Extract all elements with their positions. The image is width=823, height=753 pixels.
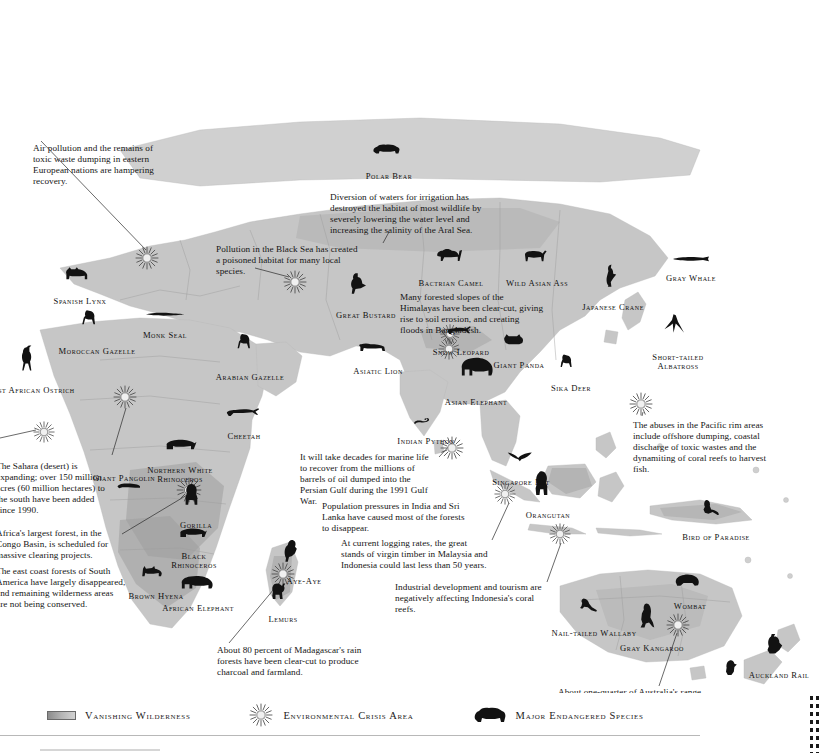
species-label-sika-deer: Sika Deer xyxy=(551,384,591,393)
bear-silhouette-icon xyxy=(473,706,507,724)
species-label-bactrian-camel: Bactrian Camel xyxy=(419,279,484,288)
species-label-lemurs: Lemurs xyxy=(268,615,297,624)
species-label-spanish-lynx: Spanish Lynx xyxy=(54,297,107,306)
legend-item-vanishing-wilderness[interactable]: Vanishing Wilderness xyxy=(47,710,190,721)
land-island-c xyxy=(745,557,751,563)
annotation-indonesia-coral-reefs: Industrial development and tourism are n… xyxy=(395,582,547,615)
species-label-asiatic-lion: Asiatic Lion xyxy=(353,367,403,376)
species-label-gray-kangaroo: Gray Kangaroo xyxy=(616,644,688,653)
species-label-aye-aye: Aye-Aye xyxy=(286,577,321,586)
species-label-snow-leopard: Snow Leopard xyxy=(425,348,497,357)
species-label-auckland-rail: Auckland Rail xyxy=(743,671,815,680)
annotation-madagascar-rainforest: About 80 percent of Madagascar's rain fo… xyxy=(217,645,369,678)
species-label-monk-seal: Monk Seal xyxy=(143,331,187,340)
species-label-indian-python: Indian Python xyxy=(397,437,454,446)
land-tasmania xyxy=(690,666,706,680)
species-label-gray-whale: Gray Whale xyxy=(666,274,716,283)
annotation-australia-desertification: About one-quarter of Australia's range a… xyxy=(558,687,708,693)
species-label-gorilla: Gorilla xyxy=(180,521,212,530)
land-japan-south xyxy=(604,330,618,344)
annotation-himalayas: Many forested slopes of the Himalayas ha… xyxy=(400,292,545,336)
legend-label-vanishing-wilderness: Vanishing Wilderness xyxy=(85,710,190,721)
footer-divider-rule xyxy=(0,735,700,736)
species-label-nail-tailed-wallaby: Nail-tailed Wallaby xyxy=(551,629,636,638)
legend-item-environmental-crisis-area[interactable]: Environmental Crisis Area xyxy=(248,702,413,728)
gradient-band-swatch-icon xyxy=(47,711,76,720)
annotation-india-sri-lanka: Population pressures in India and Sri La… xyxy=(322,501,468,534)
sunburst-icon xyxy=(248,702,274,728)
species-label-great-bustard: Great Bustard xyxy=(336,311,396,320)
species-label-wild-asian-ass: Wild Asian Ass xyxy=(506,279,568,288)
crisis-west-africa-sunburst-icon[interactable] xyxy=(34,422,54,442)
crisis-australia-sunburst-icon[interactable] xyxy=(667,614,689,636)
land-island-d xyxy=(788,574,793,579)
legend-item-major-endangered-species[interactable]: Major Endangered Species xyxy=(473,706,644,724)
species-label-japanese-crane: Japanese Crane xyxy=(582,303,644,312)
crisis-pacific-rim-sunburst-icon[interactable] xyxy=(630,393,652,415)
species-label-asian-elephant: Asian Elephant xyxy=(445,398,508,407)
annotation-eastern-europe-pollution: Air pollution and the remains of toxic w… xyxy=(33,143,173,187)
land-island-b xyxy=(784,498,789,503)
species-label-polar-bear: Polar Bear xyxy=(366,172,413,181)
species-label-short-tailed-albatross: Short-tailed Albatross xyxy=(642,353,714,372)
annotation-persian-gulf-oil: It will take decades for marine life to … xyxy=(300,452,438,507)
annotation-pacific-rim-abuses: The abuses in the Pacific rim areas incl… xyxy=(633,420,777,475)
species-label-bird-of-paradise: Bird of Paradise xyxy=(682,533,750,542)
species-label-singapore-bat: Singapore Bat xyxy=(492,478,549,487)
species-label-brown-hyena: Brown Hyena xyxy=(128,592,183,601)
species-label-african-elephant: African Elephant xyxy=(162,604,234,613)
crisis-sahara-sunburst-icon[interactable] xyxy=(114,386,136,408)
legend-label-environmental-crisis-area: Environmental Crisis Area xyxy=(283,710,413,721)
species-label-black-rhinoceros: Black Rhinoceros xyxy=(158,552,230,571)
legend-label-major-endangered-species: Major Endangered Species xyxy=(516,710,644,721)
annotation-aral-sea: Diversion of waters for irrigation has d… xyxy=(330,192,482,236)
species-label-arabian-gazelle: Arabian Gazelle xyxy=(216,373,284,382)
crisis-eastern-europe-sunburst-icon[interactable] xyxy=(136,247,158,269)
species-label-wombat: Wombat xyxy=(674,602,706,611)
species-label-cheetah: Cheetah xyxy=(227,432,260,441)
annotation-malaysia-indonesia-timber: At current logging rates, the great stan… xyxy=(341,538,491,571)
species-label-west-african-ostrich: West African Ostrich xyxy=(0,386,75,395)
species-label-moroccan-gazelle: Moroccan Gazelle xyxy=(59,347,136,356)
annotation-black-sea: Pollution in the Black Sea has created a… xyxy=(216,244,364,277)
species-label-giant-panda: Giant Panda xyxy=(494,361,545,370)
map-legend: Vanishing Wilderness Environmental Crisi… xyxy=(0,700,823,730)
annotation-congo-basin: Africa's largest forest, in the Congo Ba… xyxy=(0,528,121,561)
crisis-indonesia-sunburst-icon[interactable] xyxy=(550,524,570,544)
annotation-sahara-expansion: The Sahara (desert) is expanding; over 1… xyxy=(0,461,114,516)
species-label-orangutan: Orangutan xyxy=(526,511,570,520)
world-map: Air pollution and the remains of toxic w… xyxy=(0,0,823,693)
footer-short-rule xyxy=(40,749,160,751)
species-label-northern-white-rhinoceros: Northern White Rhinoceros xyxy=(144,466,216,485)
annotation-south-america-east-coast: The east coast forests of South America … xyxy=(0,566,126,610)
